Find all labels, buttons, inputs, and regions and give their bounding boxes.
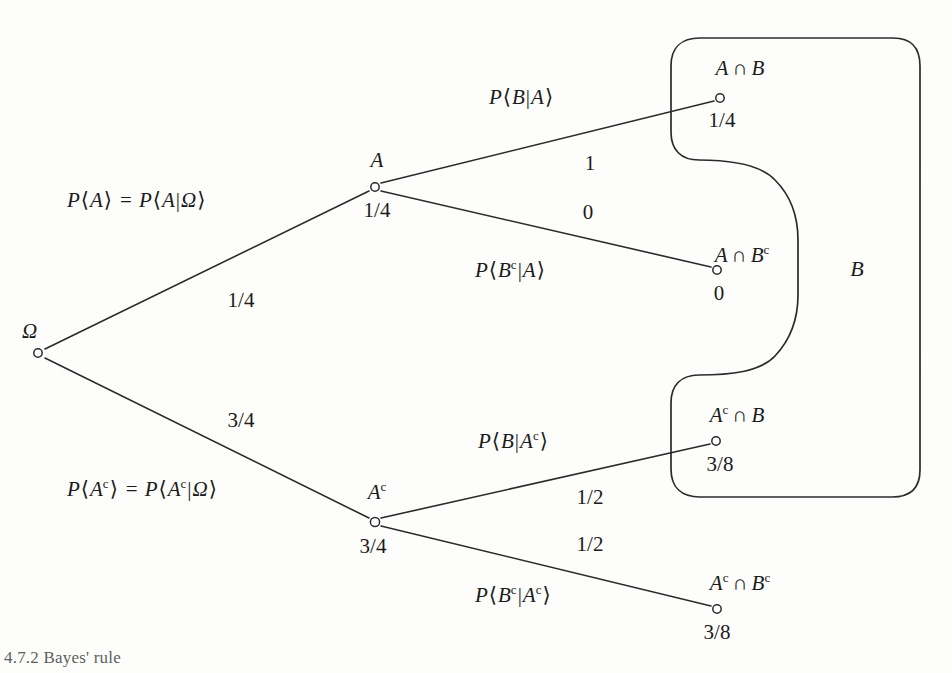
- intersection-icon-4: ∩: [728, 571, 751, 595]
- angle-open-3: ⟨: [80, 477, 90, 501]
- node-label-A: A: [371, 150, 384, 171]
- event-A-4: A: [523, 258, 536, 282]
- complement-sup-3: c: [511, 257, 517, 272]
- node-marker-ABc: [713, 266, 721, 274]
- complement-sup-8: c: [723, 402, 729, 417]
- edge-Ac-to-AcB: [381, 444, 710, 518]
- angle-open-6: ⟨: [488, 258, 498, 282]
- outcome-3-A: A: [710, 403, 723, 427]
- p-symbol-2: P: [139, 188, 152, 212]
- edge-A-to-ABc: [381, 191, 711, 267]
- node-marker-AcBc: [713, 605, 721, 613]
- angle-open-7: ⟨: [491, 429, 501, 453]
- branch-weight-Ac-to-AcB: 1/2: [577, 487, 604, 508]
- angle-close-6: ⟩: [536, 258, 546, 282]
- branch-expression-root-to-Ac: P⟨Ac⟩=P⟨Ac|Ω⟩: [67, 477, 218, 500]
- event-Bc-2: B: [498, 583, 511, 607]
- complement-sup-5: c: [511, 582, 517, 597]
- angle-open-4: ⟨: [158, 477, 168, 501]
- outcome-value-Ac-cap-B: 3/8: [707, 454, 734, 475]
- angle-close-8: ⟩: [541, 583, 551, 607]
- angle-close-5: ⟩: [544, 85, 554, 109]
- figure-caption: 4.7.2 Bayes' rule: [4, 648, 121, 668]
- event-Ac-3: A: [520, 429, 533, 453]
- angle-close-3: ⟩: [109, 477, 119, 501]
- event-omega-2: Ω: [193, 477, 208, 501]
- intersection-icon-1: ∩: [728, 56, 751, 80]
- p-symbol-4: P: [145, 477, 158, 501]
- complement-sup-4: c: [533, 428, 539, 443]
- event-Ac-2: A: [168, 477, 181, 501]
- outcome-4-A: A: [710, 571, 723, 595]
- edge-root-to-A: [45, 191, 369, 349]
- branch-weight-A-to-AB: 1: [585, 153, 596, 174]
- outcome-value-A-cap-B: 1/4: [709, 110, 736, 131]
- branch-expression-Ac-to-AcB: P⟨B|Ac⟩: [478, 429, 549, 452]
- angle-close-4: ⟩: [208, 477, 218, 501]
- outcome-2-A: A: [715, 243, 728, 267]
- outcome-4-B: B: [752, 571, 765, 595]
- outcome-value-Ac-cap-Bc: 3/8: [704, 622, 731, 643]
- branch-expression-root-to-A: P⟨A⟩=P⟨A|Ω⟩: [67, 190, 206, 211]
- node-marker-A: [371, 183, 379, 191]
- node-Ac-base: A: [368, 480, 381, 504]
- p-symbol-3: P: [67, 477, 80, 501]
- angle-open-5: ⟨: [502, 85, 512, 109]
- node-marker-AB: [716, 94, 724, 102]
- region-label-B: B: [850, 258, 863, 280]
- complement-sup-10: c: [764, 570, 770, 585]
- angle-open-2: ⟨: [152, 188, 162, 212]
- p-symbol-8: P: [475, 583, 488, 607]
- equals-sign-2: =: [119, 477, 145, 501]
- angle-close-7: ⟩: [539, 429, 549, 453]
- tree-edges: [45, 101, 714, 606]
- equals-sign-1: =: [113, 188, 139, 212]
- event-A-3: A: [531, 85, 544, 109]
- node-label-Ac: Ac: [368, 480, 387, 503]
- branch-expression-A-to-ABc: P⟨Bc|A⟩: [475, 258, 546, 281]
- intersection-icon-2: ∩: [728, 243, 751, 267]
- region-B-path: [671, 38, 920, 497]
- event-Bc-1: B: [498, 258, 511, 282]
- branch-weight-A-to-ABc: 0: [583, 202, 594, 223]
- outcome-3-B: B: [751, 403, 764, 427]
- complement-sup-1: c: [103, 476, 109, 491]
- complement-sup-7: c: [764, 242, 770, 257]
- outcome-1-A: A: [716, 56, 729, 80]
- intersection-icon-3: ∩: [728, 403, 751, 427]
- p-symbol-5: P: [489, 85, 502, 109]
- event-B-2: B: [501, 429, 514, 453]
- node-Ac-sup: c: [381, 479, 387, 494]
- p-symbol-7: P: [478, 429, 491, 453]
- node-marker-root: [34, 349, 42, 357]
- outcome-2-B: B: [751, 243, 764, 267]
- event-A-1: A: [90, 188, 103, 212]
- region-B-outline: [671, 38, 920, 497]
- outcome-1-B: B: [752, 56, 765, 80]
- angle-open-1: ⟨: [80, 188, 90, 212]
- p-symbol-6: P: [475, 258, 488, 282]
- edge-A-to-AB: [381, 101, 714, 183]
- node-label-root: Ω: [22, 321, 37, 342]
- branch-weight-root-to-Ac: 3/4: [228, 410, 255, 431]
- diagram-page: Ω P⟨A⟩=P⟨A|Ω⟩ 1/4 P⟨Ac⟩=P⟨Ac|Ω⟩ 3/4 A 1/…: [0, 0, 952, 673]
- event-Ac-1: A: [90, 477, 103, 501]
- outcome-label-A-cap-Bc: A∩Bc: [715, 243, 770, 266]
- outcome-label-Ac-cap-B: Ac∩B: [710, 403, 765, 426]
- outcome-label-Ac-cap-Bc: Ac∩Bc: [710, 571, 770, 594]
- angle-close-2: ⟩: [196, 188, 206, 212]
- node-value-A: 1/4: [364, 200, 391, 221]
- node-value-Ac: 3/4: [360, 536, 387, 557]
- branch-expression-A-to-AB: P⟨B|A⟩: [489, 87, 554, 108]
- probability-tree-svg: [0, 0, 952, 673]
- angle-close-1: ⟩: [103, 188, 113, 212]
- angle-open-8: ⟨: [488, 583, 498, 607]
- p-symbol-1: P: [67, 188, 80, 212]
- event-B-1: B: [512, 85, 525, 109]
- outcome-label-A-cap-B: A∩B: [716, 58, 765, 79]
- event-omega-1: Ω: [181, 188, 196, 212]
- branch-expression-Ac-to-AcBc: P⟨Bc|Ac⟩: [475, 583, 552, 606]
- branch-weight-Ac-to-AcBc: 1/2: [577, 534, 604, 555]
- event-Ac-4: A: [523, 583, 536, 607]
- node-marker-Ac: [370, 517, 379, 526]
